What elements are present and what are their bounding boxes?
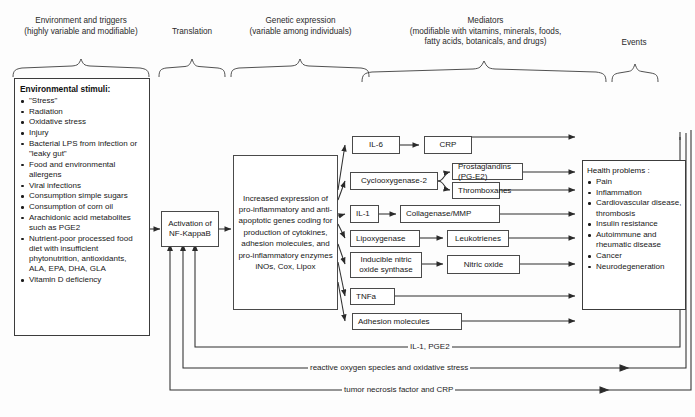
column-header-events: Events (598, 38, 670, 49)
column-header-environment: Environment and triggers (highly variabl… (6, 16, 156, 37)
list-item: Inflammation (587, 188, 682, 198)
list-item: Injury (20, 128, 145, 138)
diagram-canvas: Environment and triggers (highly variabl… (0, 0, 695, 417)
health-problems-box: Health problems : Pain Inflammation Card… (582, 160, 686, 310)
environmental-stimuli-list: "Stress" Radiation Oxidative stress Inju… (20, 96, 145, 285)
feedback-label-ros: reactive oxygen species and oxidative st… (308, 363, 470, 372)
activation-nf-kappab-box: Activation of NF-KappaB (161, 211, 219, 247)
genetic-expression-text: Increased expression of pro-inflammatory… (234, 193, 337, 273)
mediator-adhesion-molecules-box: Adhesion molecules (352, 313, 462, 330)
environmental-stimuli-heading: Environmental stimuli: (20, 84, 145, 95)
mediator-crp-box: CRP (424, 136, 472, 154)
list-item: Arachidonic acid metabolites such as PGE… (20, 213, 145, 233)
feedback-label-il1-pge2: IL-1, PGE2 (408, 342, 452, 351)
mediator-cyclooxygenase2-box: Cyclooxygenase-2 (350, 172, 438, 190)
list-item: Consumption simple sugars (20, 191, 145, 201)
list-item: Viral infections (20, 181, 145, 191)
list-item: Neurodegeneration (587, 262, 682, 272)
list-item: Vitamin D deficiency (20, 275, 145, 285)
mediator-lipoxygenase-box: Lipoxygenase (350, 230, 420, 247)
list-item: "Stress" (20, 96, 145, 106)
list-item: Bacterial LPS from infection or "leaky g… (20, 139, 145, 159)
column-header-translation: Translation (158, 27, 226, 38)
feedback-label-tnf-crp: tumor necrosis factor and CRP (342, 385, 455, 394)
mediator-inos-box: Inducible nitric oxide synthase (350, 252, 422, 278)
list-item: Pain (587, 177, 682, 187)
column-header-mediators: Mediators (modifiable with vitamins, min… (358, 16, 613, 48)
mediator-il6-box: IL-6 (352, 136, 400, 154)
list-item: Insulin resistance (587, 219, 682, 229)
mediator-il1-box: IL-1 (350, 205, 379, 223)
mediator-prostaglandins-box: Prostaglandins (PG-E2) (452, 163, 523, 180)
mediator-leukotrienes-box: Leukotrienes (447, 230, 509, 247)
mediator-nitric-oxide-box: Nitric oxide (447, 255, 520, 274)
mediator-tnfa-box: TNFa (350, 288, 395, 305)
list-item: Autoimmune and rheumatic disease (587, 230, 682, 250)
health-problems-heading: Health problems : (587, 165, 682, 176)
list-item: Cancer (587, 251, 682, 261)
genetic-expression-box: Increased expression of pro-inflammatory… (233, 155, 338, 310)
health-problems-list: Pain Inflammation Cardiovascular disease… (587, 177, 682, 272)
column-header-genetic: Genetic expression (variable among indiv… (228, 16, 373, 37)
mediator-collagenase-mmp-box: Collagenase/MMP (400, 205, 500, 223)
environmental-stimuli-box: Environmental stimuli: "Stress" Radiatio… (14, 78, 150, 336)
list-item: Consumption of corn oil (20, 202, 145, 212)
mediator-thromboxanes-box: Thromboxanes (452, 182, 500, 199)
list-item: Nutrient-poor processed food diet with i… (20, 234, 145, 275)
list-item: Oxidative stress (20, 117, 145, 127)
list-item: Food and environmental allergens (20, 160, 145, 180)
list-item: Cardiovascular disease, thrombosis (587, 198, 682, 218)
list-item: Radiation (20, 107, 145, 117)
